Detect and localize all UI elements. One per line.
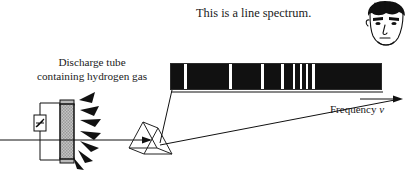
light-beam bbox=[0, 137, 152, 144]
ray-3 bbox=[80, 119, 101, 127]
power-supply-zigzag bbox=[36, 119, 44, 127]
ear bbox=[366, 20, 369, 26]
ray-7 bbox=[73, 157, 84, 170]
ray-4 bbox=[80, 131, 101, 140]
prism-edge-left bbox=[129, 148, 144, 154]
frequency-axis-arrowhead bbox=[393, 96, 403, 103]
ray-2 bbox=[80, 106, 99, 116]
ray-5 bbox=[80, 141, 99, 152]
ray-6 bbox=[78, 150, 93, 163]
dispersion-lower-edge bbox=[160, 99, 400, 145]
dispersion-upper-edge bbox=[160, 90, 172, 143]
discharge-tube bbox=[34, 92, 101, 170]
tube-glass-body bbox=[60, 104, 74, 159]
eye-right bbox=[391, 22, 396, 25]
cartoon-face bbox=[366, 1, 405, 45]
dispersed-beam bbox=[160, 90, 403, 145]
emitted-rays bbox=[73, 92, 101, 170]
diagram-artwork bbox=[0, 0, 420, 181]
prism bbox=[129, 122, 172, 154]
figure-canvas: Discharge tube containing hydrogen gas T… bbox=[0, 0, 420, 181]
ray-1 bbox=[79, 92, 95, 103]
eye-left bbox=[375, 22, 380, 25]
